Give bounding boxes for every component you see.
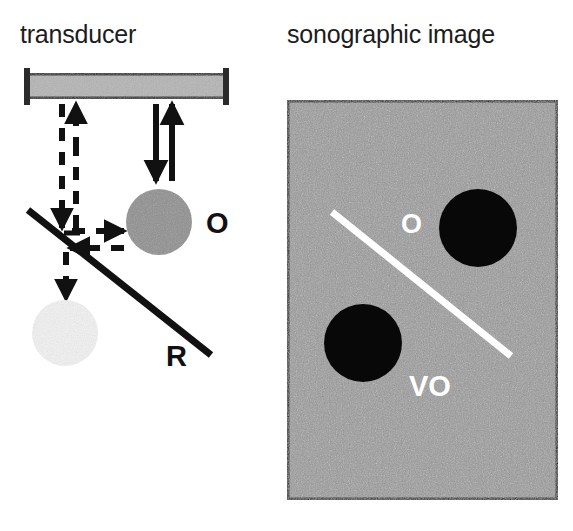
transducer-right-edge: [223, 68, 229, 105]
transducer-left-edge: [24, 68, 30, 105]
right-panel-sonographic-image: O VO: [287, 100, 558, 500]
left-panel-diagram: O R: [24, 68, 229, 372]
mirror-beam-path: [62, 104, 124, 299]
object-label-sono: O: [401, 209, 422, 239]
transducer-body: [24, 73, 229, 99]
virtual-object-circle: [32, 300, 98, 366]
direct-beam-path: [156, 104, 172, 181]
transducer-probe: [24, 68, 229, 105]
object-spot: [439, 189, 517, 267]
virtual-object-label-sono: VO: [409, 370, 451, 402]
object-label-left: O: [206, 207, 229, 239]
sonographic-image-frame: [287, 100, 558, 500]
reflector-label-left: R: [166, 340, 187, 372]
ultrasound-mirror-artifact-figure: transducer sonographic image: [0, 0, 573, 531]
virtual-object-spot: [324, 304, 402, 382]
figure-canvas: O R O VO: [0, 0, 573, 531]
object-circle: [126, 189, 192, 255]
